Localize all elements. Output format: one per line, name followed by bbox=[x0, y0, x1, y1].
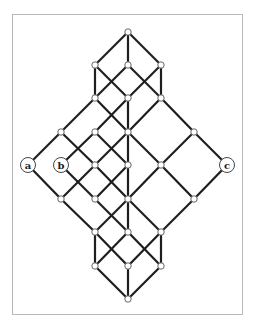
lattice-node bbox=[92, 196, 98, 202]
node-label-c: c bbox=[220, 158, 235, 173]
lattice-node bbox=[158, 162, 164, 168]
lattice-node bbox=[125, 263, 131, 269]
lattice-node bbox=[125, 229, 131, 235]
edge-D5-E3 bbox=[128, 165, 161, 199]
edge-E4-F3 bbox=[161, 199, 194, 232]
label-a-text: a bbox=[25, 160, 32, 171]
lattice-node bbox=[191, 196, 197, 202]
edge-G1-Bot bbox=[95, 266, 128, 299]
node-label-a: a bbox=[21, 158, 36, 173]
lattice-node bbox=[158, 95, 164, 101]
lattice-node bbox=[158, 229, 164, 235]
label-b-text: b bbox=[58, 160, 65, 171]
lattice-node bbox=[125, 62, 131, 68]
edge-T-A1 bbox=[95, 32, 128, 65]
lattice-node bbox=[125, 129, 131, 135]
lattice-node bbox=[92, 95, 98, 101]
lattice-node bbox=[158, 263, 164, 269]
edge-T-A3 bbox=[128, 32, 161, 65]
edge-D5-E4 bbox=[161, 165, 194, 199]
lattice-node bbox=[92, 129, 98, 135]
lattice-node bbox=[125, 296, 131, 302]
edge-E3-F3 bbox=[128, 199, 161, 232]
label-c-text: c bbox=[224, 160, 230, 171]
lattice-node bbox=[58, 196, 64, 202]
lattice-node bbox=[125, 196, 131, 202]
edge-E1-F1 bbox=[61, 199, 95, 232]
lattice-node bbox=[125, 29, 131, 35]
lattice-node bbox=[58, 129, 64, 135]
edge-B1-C1 bbox=[61, 98, 95, 132]
edge-C3-D5 bbox=[128, 132, 161, 165]
edge-G3-Bot bbox=[128, 266, 161, 299]
lattice-node bbox=[92, 229, 98, 235]
lattice-node bbox=[92, 62, 98, 68]
edge-B3-C4 bbox=[161, 98, 194, 132]
lattice-node bbox=[92, 263, 98, 269]
edge-B3-C3 bbox=[128, 98, 161, 132]
lattice-node bbox=[158, 62, 164, 68]
lattice-node bbox=[125, 95, 131, 101]
lattice-diagram: a b c bbox=[0, 0, 257, 327]
node-layer bbox=[58, 29, 197, 302]
node-label-b: b bbox=[54, 158, 69, 173]
edge-C4-D5 bbox=[161, 132, 194, 165]
lattice-node bbox=[92, 162, 98, 168]
lattice-node bbox=[191, 129, 197, 135]
lattice-node bbox=[125, 162, 131, 168]
